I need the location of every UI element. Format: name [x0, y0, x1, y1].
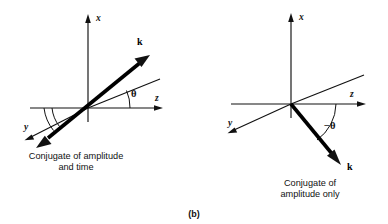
left-y-axis-label: y — [23, 122, 29, 132]
left-angle-arc-y — [44, 108, 60, 131]
right-panel-group: x z y k −θ Conjugate of amplitude only — [227, 12, 366, 199]
right-z-axis-label: z — [349, 89, 354, 99]
left-reference-ray — [88, 79, 160, 108]
left-angle-label: θ — [131, 88, 137, 99]
left-k-vector-label: k — [137, 36, 143, 47]
right-angle-label: −θ — [324, 120, 336, 131]
left-angle-arc-theta — [127, 91, 131, 109]
right-caption-line-2: amplitude only — [280, 189, 340, 199]
figure-container: x z y k θ Conjugate of amplitude and tim… — [0, 0, 388, 224]
right-k-vector — [291, 104, 341, 165]
right-z-axis — [231, 101, 366, 107]
vector-diagram-svg: x z y k θ Conjugate of amplitude and tim… — [0, 0, 388, 224]
figure-label: (b) — [188, 209, 200, 219]
right-caption-line-1: Conjugate of — [284, 178, 337, 188]
right-k-vector-label: k — [347, 161, 353, 172]
right-x-axis-label: x — [298, 12, 304, 22]
left-panel-group: x z y k θ Conjugate of amplitude and tim… — [23, 13, 163, 172]
right-y-axis — [228, 104, 292, 133]
left-caption-line-2: and time — [58, 162, 93, 172]
right-x-axis — [288, 13, 294, 118]
left-z-axis — [30, 105, 163, 111]
left-z-axis-label: z — [154, 93, 159, 103]
left-caption-line-1: Conjugate of amplitude — [29, 151, 124, 161]
left-x-axis-label: x — [95, 13, 101, 23]
right-y-axis-label: y — [227, 118, 233, 128]
left-k-vector — [36, 55, 150, 148]
